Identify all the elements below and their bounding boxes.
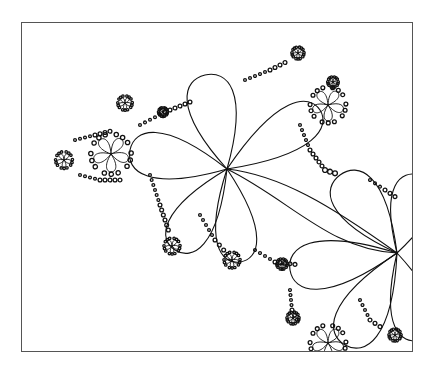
fractal-curve — [163, 245, 165, 247]
fractal-curve — [290, 299, 293, 302]
fractal-curve — [222, 248, 226, 252]
fractal-curve — [74, 139, 77, 142]
fractal-curve — [118, 178, 122, 182]
fractal-curve — [60, 167, 62, 169]
fractal-curve — [121, 109, 123, 111]
fractal-image — [0, 0, 440, 373]
fractal-curve — [388, 334, 390, 336]
fractal-curve — [90, 158, 94, 162]
fractal-curve — [328, 91, 339, 105]
fractal-curve — [328, 329, 339, 343]
fractal-curve — [312, 352, 316, 356]
fractal-curve — [286, 317, 288, 319]
fractal-curve — [239, 258, 241, 260]
fractal-curve — [344, 102, 348, 106]
fractal-curve — [168, 108, 172, 112]
fractal-curve — [89, 151, 93, 155]
fractal-curve — [158, 203, 162, 207]
fractal-curve — [302, 55, 304, 57]
fractal-curve — [341, 331, 345, 335]
fractal-curve — [202, 219, 205, 222]
fractal-curve — [264, 71, 267, 74]
fractal-curve — [237, 254, 239, 256]
fractal-curve — [79, 137, 82, 140]
fractal-curve — [315, 327, 319, 331]
fractal-curve — [160, 208, 164, 212]
fractal-curve — [273, 66, 277, 70]
fractal-curve — [79, 174, 82, 177]
fractal-curve — [341, 93, 345, 97]
fractal-curve — [309, 347, 313, 351]
fractal-curve — [326, 121, 330, 125]
fractal-curve — [311, 331, 315, 335]
fractal-curve — [336, 88, 340, 92]
fractal-curve — [321, 86, 325, 90]
fractal-curve — [269, 258, 272, 261]
fractal-curve — [227, 169, 397, 253]
fractal-curve — [391, 174, 436, 253]
fractal-curve — [326, 359, 330, 363]
fractal-curve — [171, 253, 173, 255]
fractal-curve — [199, 214, 202, 217]
fractal-curve — [116, 171, 120, 175]
fractal-curve — [299, 124, 302, 127]
fractal-curve — [149, 118, 152, 121]
fractal-curve — [399, 337, 401, 339]
fractal-curve — [308, 148, 312, 152]
fractal-curve — [150, 179, 153, 182]
fractal-curve — [308, 341, 312, 345]
fractal-curve — [392, 339, 394, 341]
fractal-curve — [71, 158, 73, 160]
fractal-curve — [125, 164, 129, 168]
fractal-curve — [92, 141, 96, 145]
fractal-curve — [111, 138, 123, 154]
fractal-curve — [320, 164, 324, 168]
fractal-curve — [174, 252, 176, 254]
fractal-curve — [168, 237, 170, 239]
fractal-curve — [177, 250, 179, 252]
fractal-curve — [227, 169, 397, 253]
fractal-curve — [331, 324, 335, 328]
fractal-curve — [399, 330, 401, 332]
fractal-curve — [155, 194, 158, 197]
fractal-curve — [283, 261, 287, 265]
fractal-curve — [249, 77, 252, 80]
fractal-curve — [122, 95, 124, 97]
fractal-curve — [305, 139, 308, 142]
fractal-curve — [290, 322, 292, 324]
fractal-curve — [130, 132, 227, 179]
fractal-curve — [289, 294, 292, 297]
fractal-curve — [254, 75, 257, 78]
fractal-curve — [94, 177, 97, 180]
fractal-curve — [289, 289, 292, 292]
fractal-curve — [108, 129, 112, 133]
fractal-curve — [228, 251, 230, 253]
fractal-curve — [320, 358, 324, 362]
fractal-curve — [273, 260, 277, 264]
fractal-curve — [343, 108, 347, 112]
fractal-curve — [129, 151, 133, 155]
fractal-curve — [217, 243, 221, 247]
fractal-curve — [60, 151, 62, 153]
fractal-curve — [332, 358, 336, 362]
fractal-curve — [309, 109, 313, 113]
fractal-curve — [259, 252, 262, 255]
fractal-curve — [231, 267, 233, 269]
fractal-curve — [378, 325, 382, 329]
fractal-curve — [113, 178, 117, 182]
fractal-curve — [344, 340, 348, 344]
fractal-curve — [114, 132, 118, 136]
fractal-curve — [63, 167, 65, 169]
fractal-curve — [144, 121, 147, 124]
fractal-curve — [332, 120, 336, 124]
fractal-curve — [98, 139, 111, 154]
fractal-curve — [166, 169, 227, 253]
fractal-curve — [84, 175, 87, 178]
fractal-curve — [54, 159, 56, 161]
fractal-curve — [157, 199, 160, 202]
fractal-curve — [237, 264, 239, 266]
fractal-curve — [323, 168, 328, 173]
fractal-curve — [301, 129, 304, 132]
fractal-curve — [69, 164, 71, 166]
fractal-curve — [336, 326, 340, 330]
